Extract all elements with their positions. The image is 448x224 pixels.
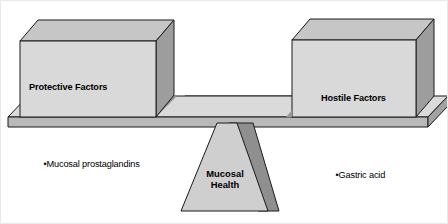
left-box-top-face <box>20 20 174 41</box>
hostile-factors-item-0-line1: Gastric acid <box>339 170 386 180</box>
hostile-factors-text-block: Hostile Factors •Gastric acid •Pepsin <box>321 56 386 224</box>
diagram-canvas: .ol { stroke: #1a1a1a; stroke-width: 1; … <box>0 0 448 224</box>
fulcrum-label-line1: Mucosal <box>189 168 261 179</box>
protective-factors-item-0-line1: Mucosal prostaglandins <box>47 159 140 169</box>
protective-factors-text-block: Protective Factors •Mucosal prostaglandi… <box>29 45 140 224</box>
protective-factors-title: Protective Factors <box>29 82 140 93</box>
protective-factors-item-0-cont: and bicarbonate <box>29 218 140 224</box>
fulcrum-label-line2: Health <box>189 179 261 190</box>
fulcrum-label: Mucosal Health <box>189 168 261 190</box>
hostile-factors-title: Hostile Factors <box>321 93 386 104</box>
right-box-top-face <box>292 19 434 40</box>
protective-factors-item-0: •Mucosal prostaglandins <box>29 148 140 180</box>
hostile-factors-item-0: •Gastric acid <box>321 159 386 191</box>
